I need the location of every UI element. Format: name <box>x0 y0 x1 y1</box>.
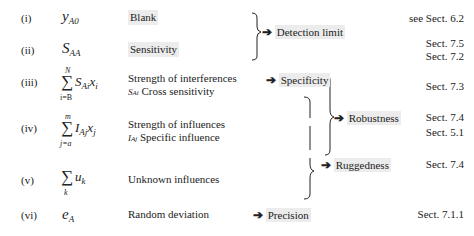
result-precision: ➔ Precision <box>253 208 311 223</box>
result-specificity: ➔ Specificity <box>266 73 330 88</box>
result-ruggedness: ➔ Ruggedness <box>321 158 391 173</box>
arrow-right-icon: ➔ <box>266 73 276 87</box>
section-ref: Sect. 7.5 <box>426 37 464 49</box>
arrow-right-icon: ➔ <box>321 158 331 172</box>
section-ref: Sect. 7.4 <box>426 111 464 123</box>
result-robustness: ➔ Robustness <box>334 111 401 126</box>
section-ref: Sect. 7.3 <box>426 80 464 92</box>
result-detection-limit: ➔ Detection limit <box>262 25 345 40</box>
section-ref: Sect. 7.2 <box>426 50 464 62</box>
section-ref: see Sect. 6.2 <box>409 12 464 24</box>
arrow-right-icon: ➔ <box>334 111 344 125</box>
section-ref: Sect. 7.4 <box>426 158 464 170</box>
brace-lines <box>0 0 474 236</box>
brace-detection <box>252 13 261 60</box>
section-ref: Sect. 7.1.1 <box>418 208 464 220</box>
arrow-right-icon: ➔ <box>253 208 263 222</box>
section-ref: Sect. 5.1 <box>426 126 464 138</box>
arrow-right-icon: ➔ <box>262 25 272 39</box>
